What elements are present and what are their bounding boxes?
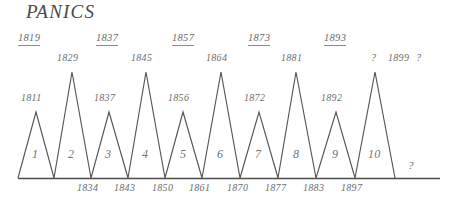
cycle-number-8: 8 bbox=[293, 148, 299, 160]
trailing-question-mark: ? bbox=[408, 160, 414, 171]
cycle-number-3: 3 bbox=[105, 148, 111, 160]
trough-year-label-1834: 1834 bbox=[77, 183, 98, 193]
tall-peak-label-1864: 1864 bbox=[206, 53, 227, 63]
era-year-label-2: 1837 bbox=[96, 33, 118, 46]
trough-year-label-1843: 1843 bbox=[114, 183, 135, 193]
tall-peak-label-1829: 1829 bbox=[57, 53, 78, 63]
era-year-label-3: 1857 bbox=[172, 33, 194, 46]
panics-zigzag-line bbox=[18, 72, 395, 178]
trough-year-label-1877: 1877 bbox=[265, 183, 286, 193]
short-peak-label-1837: 1837 bbox=[94, 93, 115, 103]
trough-year-label-1861: 1861 bbox=[189, 183, 210, 193]
era-year-label-1: 1819 bbox=[18, 33, 40, 46]
cycle-number-4: 4 bbox=[142, 148, 148, 160]
projection-year-label: 1899 bbox=[388, 53, 409, 63]
trough-year-label-1883: 1883 bbox=[303, 183, 324, 193]
tall-peak-label-1881: 1881 bbox=[281, 53, 302, 63]
projection-question-mark: ? bbox=[416, 53, 421, 63]
panics-chart: PANICS 1819 1837 1857 1873 1893 1829 184… bbox=[0, 0, 453, 202]
era-year-label-5: 1893 bbox=[324, 33, 346, 46]
cycle-number-5: 5 bbox=[180, 148, 186, 160]
trough-year-label-1850: 1850 bbox=[152, 183, 173, 193]
trough-year-label-1870: 1870 bbox=[227, 183, 248, 193]
cycle-number-9: 9 bbox=[332, 148, 338, 160]
cycle-number-10: 10 bbox=[368, 148, 381, 160]
short-peak-label-1892: 1892 bbox=[321, 93, 342, 103]
tall-peak-label-unknown: ? bbox=[371, 53, 376, 63]
trough-year-label-1897: 1897 bbox=[341, 183, 362, 193]
cycle-number-1: 1 bbox=[32, 148, 38, 160]
tall-peak-label-1845: 1845 bbox=[131, 53, 152, 63]
cycle-number-7: 7 bbox=[255, 148, 261, 160]
cycle-number-2: 2 bbox=[68, 148, 74, 160]
short-peak-label-1856: 1856 bbox=[168, 93, 189, 103]
cycle-number-6: 6 bbox=[217, 148, 223, 160]
short-peak-label-1872: 1872 bbox=[244, 93, 265, 103]
panics-zigzag-plot bbox=[0, 0, 453, 202]
era-year-label-4: 1873 bbox=[248, 33, 270, 46]
short-peak-label-1811: 1811 bbox=[21, 93, 41, 103]
